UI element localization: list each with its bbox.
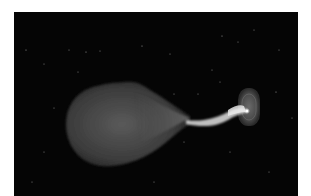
compact-object: [246, 110, 248, 112]
illustration-frame: [14, 12, 298, 196]
binary-star-illustration: [14, 12, 298, 196]
donor-star: [66, 82, 190, 166]
